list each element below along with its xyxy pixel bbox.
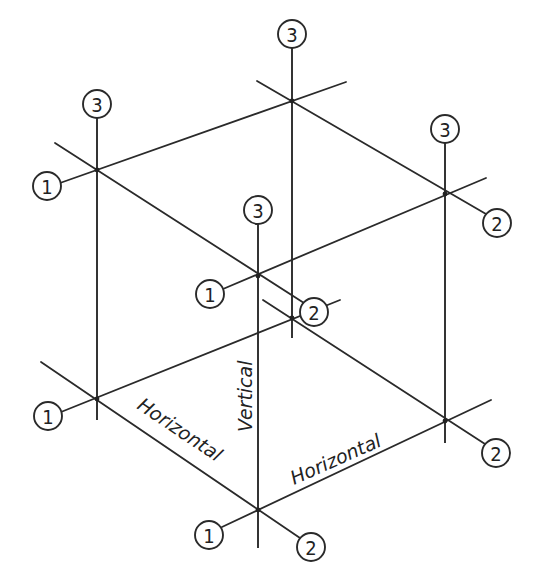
label-horizontal-left: Horizontal bbox=[134, 393, 227, 466]
marker-tr-2: 2 bbox=[483, 209, 511, 237]
marker-tl-1: 1 bbox=[33, 172, 61, 200]
node-top-right bbox=[443, 192, 448, 197]
marker-tr-3: 3 bbox=[431, 115, 459, 143]
node-bottom-left bbox=[95, 397, 100, 402]
axis-2-lines bbox=[41, 81, 486, 538]
axis-1-lines bbox=[60, 82, 491, 527]
label-vertical: Vertical bbox=[234, 360, 256, 432]
svg-text:2: 2 bbox=[490, 442, 501, 466]
svg-text:2: 2 bbox=[491, 212, 502, 236]
node-top-back bbox=[290, 99, 295, 104]
node-top-front bbox=[256, 274, 261, 279]
svg-text:1: 1 bbox=[204, 283, 215, 307]
marker-bb-2: 2 bbox=[300, 298, 328, 326]
axis-markers: 3 1 3 3 2 3 1 2 bbox=[33, 20, 511, 561]
node-bottom-right bbox=[443, 419, 448, 424]
marker-bf-2: 2 bbox=[297, 533, 325, 561]
marker-br-2: 2 bbox=[482, 439, 510, 467]
svg-text:3: 3 bbox=[252, 199, 263, 223]
marker-bl-1: 1 bbox=[34, 402, 62, 430]
top-left-front-edge bbox=[55, 143, 304, 303]
svg-text:2: 2 bbox=[308, 301, 319, 325]
svg-text:2: 2 bbox=[305, 536, 316, 560]
svg-text:1: 1 bbox=[42, 405, 53, 429]
svg-text:3: 3 bbox=[286, 23, 297, 47]
svg-text:1: 1 bbox=[203, 524, 214, 548]
svg-text:3: 3 bbox=[439, 118, 450, 142]
bottom-left-back-edge bbox=[61, 300, 340, 412]
marker-tf-1: 1 bbox=[196, 280, 224, 308]
label-horizontal-right: Horizontal bbox=[287, 429, 385, 489]
node-bottom-front bbox=[256, 508, 261, 513]
marker-tl-3: 3 bbox=[83, 90, 111, 118]
bottom-back-right-edge bbox=[263, 300, 485, 444]
svg-text:3: 3 bbox=[91, 93, 102, 117]
marker-tb-3: 3 bbox=[278, 20, 306, 48]
marker-tf-3: 3 bbox=[244, 196, 272, 224]
node-top-left bbox=[95, 168, 100, 173]
bottom-front-right-edge bbox=[222, 400, 491, 527]
svg-text:1: 1 bbox=[41, 175, 52, 199]
isometric-axis-diagram: 3 1 3 3 2 3 1 2 bbox=[0, 0, 538, 579]
bottom-left-front-edge bbox=[41, 362, 300, 538]
marker-bf-1: 1 bbox=[195, 521, 223, 549]
vertical-lines bbox=[97, 47, 445, 548]
node-bottom-back bbox=[290, 316, 295, 321]
